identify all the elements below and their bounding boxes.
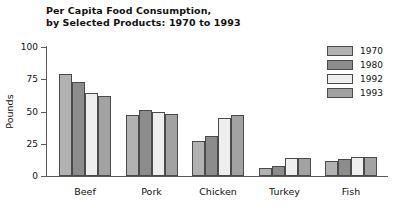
bar — [98, 96, 111, 176]
chart-figure: Per Capita Food Consumption,by Selected … — [0, 0, 398, 217]
x-axis-label-beef: Beef — [74, 186, 96, 197]
y-tick: 100 — [46, 47, 47, 48]
y-tick-mark — [41, 144, 46, 145]
chart-legend: 1970198019921993 — [327, 45, 383, 101]
bar — [364, 157, 377, 176]
bar — [231, 115, 244, 176]
y-tick-mark — [41, 112, 46, 113]
bar — [152, 112, 165, 177]
y-tick-label: 75 — [27, 74, 38, 84]
y-tick-mark — [41, 47, 46, 48]
x-axis-label-fish: Fish — [342, 186, 360, 197]
x-axis-line — [46, 176, 388, 177]
bar — [165, 114, 178, 176]
bar — [59, 74, 72, 176]
y-tick-mark — [41, 79, 46, 80]
bar — [192, 141, 205, 176]
legend-item: 1970 — [327, 45, 383, 58]
bar — [325, 161, 338, 176]
y-tick-label: 50 — [27, 107, 38, 117]
legend-label: 1970 — [360, 46, 383, 56]
bar — [298, 158, 311, 176]
legend-label: 1993 — [360, 88, 383, 98]
chart-title-line-1: Per Capita Food Consumption, — [46, 5, 241, 17]
y-tick: 0 — [46, 176, 47, 177]
bar — [205, 136, 218, 176]
bar — [285, 158, 298, 176]
y-tick-mark — [41, 176, 46, 177]
bar — [85, 93, 98, 176]
y-axis-title: Pounds — [4, 46, 16, 177]
chart-title-line-2: by Selected Products: 1970 to 1993 — [46, 17, 241, 29]
legend-label: 1992 — [360, 74, 383, 84]
bar — [338, 159, 351, 176]
y-tick: 75 — [46, 79, 47, 80]
bar — [351, 157, 364, 176]
legend-swatch — [327, 60, 353, 70]
y-tick: 25 — [46, 144, 47, 145]
bar — [259, 168, 272, 176]
chart-title: Per Capita Food Consumption,by Selected … — [46, 5, 241, 29]
y-tick-label: 0 — [32, 171, 38, 181]
bar — [72, 82, 85, 176]
legend-item: 1980 — [327, 59, 383, 72]
bar — [139, 110, 152, 176]
bar — [126, 115, 139, 176]
x-axis-label-chicken: Chicken — [199, 186, 237, 197]
y-tick-label: 25 — [27, 139, 38, 149]
bar — [272, 166, 285, 176]
legend-swatch — [327, 74, 353, 84]
legend-swatch — [327, 46, 353, 56]
legend-swatch — [327, 88, 353, 98]
legend-item: 1992 — [327, 73, 383, 86]
y-tick: 50 — [46, 112, 47, 113]
y-tick-label: 100 — [21, 42, 38, 52]
legend-label: 1980 — [360, 60, 383, 70]
x-axis-label-pork: Pork — [141, 186, 162, 197]
x-axis-label-turkey: Turkey — [269, 186, 300, 197]
legend-item: 1993 — [327, 87, 383, 100]
bar — [218, 118, 231, 176]
